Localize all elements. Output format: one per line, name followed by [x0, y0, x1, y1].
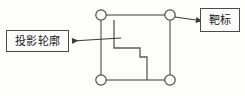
label-text-projection-contour: 投影轮廓	[15, 36, 61, 47]
label-box-target: 靶标	[200, 8, 240, 32]
leader-line-target	[175, 17, 196, 20]
label-box-projection-contour: 投影轮廓	[6, 30, 69, 52]
corner-marker-bottom-right	[165, 75, 175, 85]
corner-marker-bottom-left	[96, 75, 106, 85]
projection-contour-path	[114, 20, 147, 80]
label-text-target: 靶标	[209, 15, 232, 26]
corner-marker-top-left	[96, 10, 106, 20]
figure-canvas: 投影轮廓 靶标	[0, 0, 245, 96]
corner-marker-top-right	[165, 10, 175, 20]
